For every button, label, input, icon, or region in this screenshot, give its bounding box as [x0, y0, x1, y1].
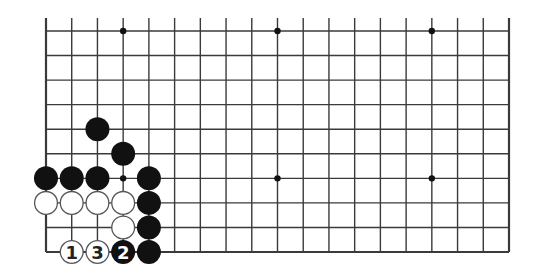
- black-stone: [34, 166, 58, 190]
- white-stone: [60, 191, 83, 214]
- star-point: [274, 175, 280, 181]
- move-number-label: 1: [65, 242, 78, 263]
- white-stone: [112, 216, 135, 239]
- star-point: [120, 28, 126, 34]
- black-stone: [85, 117, 109, 141]
- black-stone: [137, 240, 161, 264]
- white-stone: [86, 191, 109, 214]
- star-point: [429, 175, 435, 181]
- white-stone: 1: [60, 241, 83, 264]
- black-stone: [111, 142, 135, 166]
- board-grid: [46, 18, 509, 252]
- white-stone: 3: [86, 241, 109, 264]
- black-stone: [85, 166, 109, 190]
- white-stone: [112, 191, 135, 214]
- black-stone: [137, 191, 161, 215]
- move-number-label: 3: [91, 242, 104, 263]
- go-board: 132: [0, 0, 542, 273]
- star-point: [429, 28, 435, 34]
- black-stone: 2: [111, 240, 135, 264]
- star-point: [120, 175, 126, 181]
- move-number-label: 2: [117, 242, 130, 263]
- black-stone: [137, 215, 161, 239]
- black-stone: [137, 166, 161, 190]
- star-point: [274, 28, 280, 34]
- black-stone: [60, 166, 84, 190]
- white-stone: [35, 191, 58, 214]
